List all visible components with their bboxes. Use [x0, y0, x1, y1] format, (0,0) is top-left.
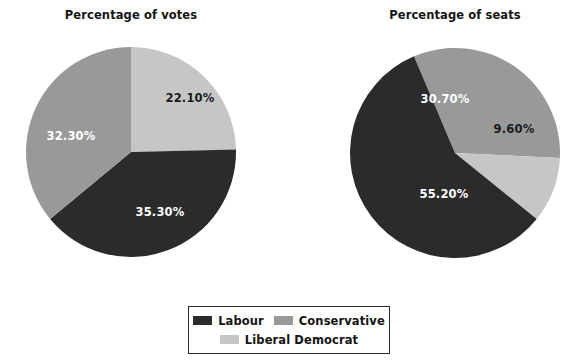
pie-chart-figure: Percentage of votes 22.10% 35.30% 32.30%…: [0, 0, 577, 363]
pie-votes-svg: [0, 0, 288, 295]
pie-chart-seats: 30.70% 9.60% 55.20%: [289, 0, 577, 295]
slice-label-labour-votes: 35.30%: [135, 205, 184, 219]
pie-chart-votes: 22.10% 35.30% 32.30%: [0, 0, 288, 295]
pie-seats-slices: [350, 48, 560, 258]
slice-label-liberal-democrat-seats: 9.60%: [494, 122, 535, 136]
pie-votes-slices: [26, 47, 236, 257]
pie-seats-svg: [289, 0, 577, 295]
slice-label-conservative-seats: 30.70%: [420, 92, 469, 106]
legend-swatch-liberal-democrat-icon: [220, 335, 239, 344]
legend-item-liberal-democrat[interactable]: Liberal Democrat: [220, 333, 358, 347]
legend-row: Labour Conservative: [189, 311, 389, 330]
legend: Labour Conservative Liberal Democrat: [188, 306, 390, 354]
legend-row: Liberal Democrat: [189, 330, 389, 349]
legend-swatch-labour-icon: [193, 316, 212, 325]
legend-item-conservative[interactable]: Conservative: [274, 314, 385, 328]
slice-label-liberal-democrat-votes: 22.10%: [165, 91, 214, 105]
legend-swatch-conservative-icon: [274, 316, 293, 325]
legend-label-labour: Labour: [218, 314, 264, 328]
slice-label-labour-seats: 55.20%: [419, 187, 468, 201]
slice-label-conservative-votes: 32.30%: [46, 129, 95, 143]
legend-item-labour[interactable]: Labour: [193, 314, 264, 328]
legend-label-conservative: Conservative: [299, 314, 385, 328]
legend-label-liberal-democrat: Liberal Democrat: [245, 333, 358, 347]
